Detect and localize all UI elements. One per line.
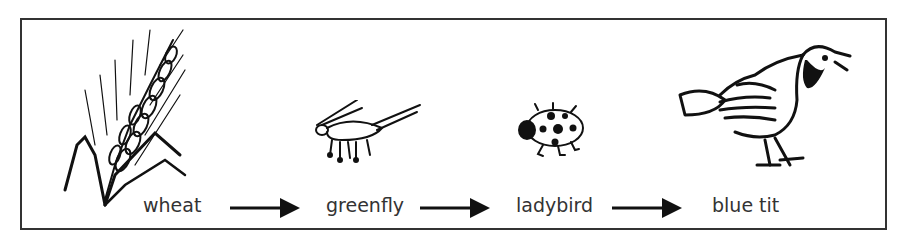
arrow-icon: [420, 196, 492, 220]
wheat-icon: [55, 25, 190, 210]
node-label-greenfly: greenfly: [326, 194, 404, 216]
node-label-ladybird: ladybird: [516, 194, 593, 216]
arrow-icon: [612, 196, 684, 220]
greenfly-icon: [312, 100, 422, 170]
node-label-blue-tit: blue tit: [712, 194, 779, 216]
node-label-wheat: wheat: [143, 194, 201, 216]
ladybird-icon: [513, 102, 588, 162]
blue-tit-icon: [675, 40, 855, 175]
arrow-icon: [230, 196, 302, 220]
